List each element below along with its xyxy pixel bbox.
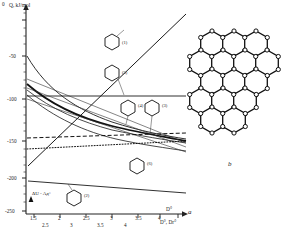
x-minor-label-4: 4 (124, 222, 127, 228)
y-tick-label-minus50: -50 (9, 53, 16, 59)
x-tick-label-2: 2 (58, 215, 61, 221)
figure-container: Q, kJ/mol 0 -50 -100 -150 -200 -250 ΔU -… (0, 0, 284, 234)
curve-label-3: (3) (162, 103, 167, 108)
x-tick-label-5: 3.5 (135, 215, 141, 221)
formula-annotation: ΔU - Aд° (32, 191, 51, 196)
series-aux-line-c (27, 79, 186, 143)
curve-label-4: (4) (138, 103, 143, 108)
y-axis-title: Q, kJ/mol (9, 2, 30, 8)
hexagon-marker-4 (121, 100, 135, 116)
y-tick-label-minus250: -250 (5, 208, 15, 214)
x-axis-title: D° (166, 206, 172, 212)
series-line-2 (28, 181, 186, 193)
x-axis-end-label: D°, Dг° (160, 219, 176, 225)
x-tick-label-4: 3 (110, 215, 113, 221)
panel-b-label: b (228, 160, 232, 168)
x-minor-label-2: 3 (70, 222, 73, 228)
series-aux-line-a (27, 88, 186, 147)
y-tick-label-minus100: -100 (7, 96, 17, 102)
curve-label-2: (2) (84, 193, 89, 198)
hexagon-marker-1 (105, 34, 119, 50)
x-axis-ticks (34, 214, 178, 218)
reference-line-dotted (27, 141, 186, 149)
curve-label-6: (6) (147, 161, 152, 166)
y-axis-major-ticks (22, 20, 26, 211)
curve-label-1: (1) (122, 40, 127, 45)
hexagon-marker-3 (145, 100, 159, 116)
y-tick-label-minus200: -200 (7, 175, 17, 181)
y-tick-label-minus150: -150 (7, 138, 17, 144)
hexagon-marker-5 (105, 65, 119, 81)
x-tick-label-1: 1.5 (30, 215, 36, 221)
curve-label-5: (5) (122, 70, 127, 75)
formula-arrow (29, 196, 34, 202)
panel-b-cluster (184, 22, 284, 182)
hexagon-marker-2 (67, 190, 81, 206)
hexagon-marker-6 (130, 158, 144, 174)
axis-origin-label: 0 (2, 1, 5, 7)
panel-a-label: a (188, 208, 192, 216)
x-tick-label-3: 2.5 (83, 215, 89, 221)
x-minor-label-3: 3.5 (97, 222, 103, 228)
x-minor-label-1: 2.5 (42, 222, 48, 228)
honeycomb-lattice (188, 29, 281, 135)
panel-a-chart (0, 0, 190, 234)
